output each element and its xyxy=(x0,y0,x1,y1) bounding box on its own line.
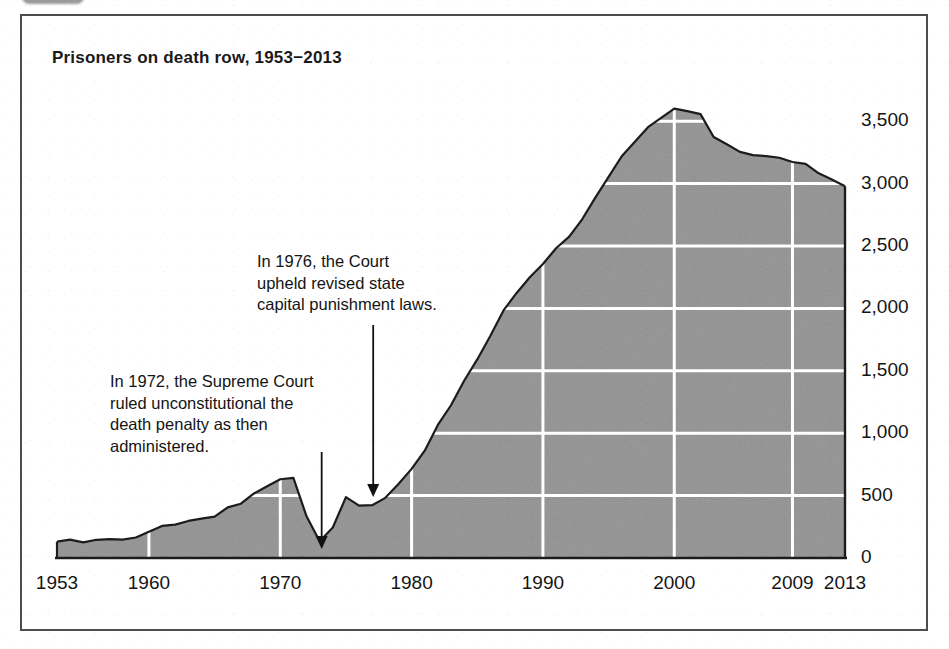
x-tick-label-1980: 1980 xyxy=(390,572,432,594)
x-tick-label-1953: 1953 xyxy=(36,572,78,594)
annotation-1976-text: In 1976, the Court upheld revised state … xyxy=(257,251,437,316)
x-tick-label-1960: 1960 xyxy=(128,572,170,594)
y-tick-label-1500: 1,500 xyxy=(861,359,909,381)
x-tick-label-2009: 2009 xyxy=(771,572,813,594)
clipped-badge xyxy=(22,0,84,4)
y-tick-label-3500: 3,500 xyxy=(861,109,909,131)
x-tick-label-2000: 2000 xyxy=(653,572,695,594)
y-tick-label-1000: 1,000 xyxy=(861,421,909,443)
x-tick-label-1990: 1990 xyxy=(522,572,564,594)
x-tick-label-2013: 2013 xyxy=(824,572,866,594)
y-tick-label-3000: 3,000 xyxy=(861,172,909,194)
y-tick-label-500: 500 xyxy=(861,484,893,506)
y-tick-label-2000: 2,000 xyxy=(861,296,909,318)
annotation-1972-text: In 1972, the Supreme Court ruled unconst… xyxy=(110,371,314,457)
y-tick-label-2500: 2,500 xyxy=(861,234,909,256)
y-tick-label-0: 0 xyxy=(861,546,872,568)
figure-frame xyxy=(20,14,928,631)
chart-title: Prisoners on death row, 1953−2013 xyxy=(52,48,342,68)
x-tick-label-1970: 1970 xyxy=(259,572,301,594)
